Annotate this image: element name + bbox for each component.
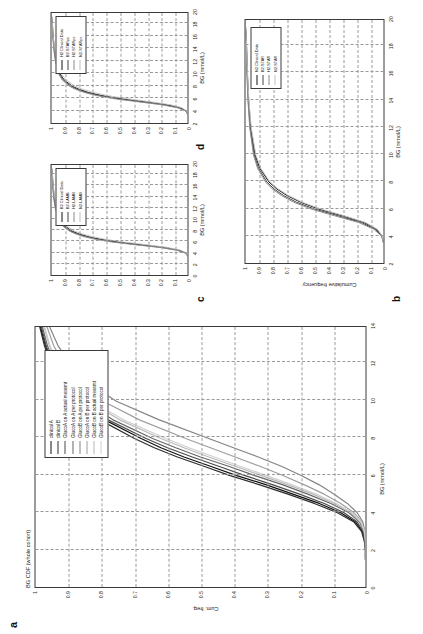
legend-label: H2 Clinical Data xyxy=(58,29,64,57)
legend-line-swatch xyxy=(268,75,269,85)
legend-item: B2-STAR xyxy=(259,31,265,85)
legend-line-swatch xyxy=(79,212,80,222)
legend-label: clinical A xyxy=(47,420,54,438)
legend-line-swatch xyxy=(79,60,80,70)
grid-line-horizontal xyxy=(329,20,330,263)
grid-line-horizontal xyxy=(161,13,162,123)
panel-d-letter: d xyxy=(194,144,205,150)
y-tick-label: 0.8 xyxy=(269,267,275,280)
figure-canvas: a BG CDF (whole cohort) 02468101214 00.1… xyxy=(0,0,423,634)
y-tick-label: 1 xyxy=(241,267,247,280)
legend-label: N2-STARpc xyxy=(77,37,83,57)
legend-line-swatch xyxy=(64,441,65,454)
y-tick-label: 0.4 xyxy=(230,591,236,604)
y-tick-label: 0.7 xyxy=(88,127,94,140)
x-tick-label: 8 xyxy=(191,85,197,88)
legend-label: B2-LAMB xyxy=(64,192,70,209)
y-tick-label: 0 xyxy=(185,127,191,140)
legend-item: N2-STAR xyxy=(272,31,278,85)
legend-item: GlucoB on B per protocol xyxy=(97,354,104,454)
y-tick-label: 0.2 xyxy=(297,591,303,604)
legend-item: B2-STARpc xyxy=(64,20,70,70)
panel-b-letter: b xyxy=(390,296,401,302)
grid-line-horizontal xyxy=(92,13,93,123)
legend-line-swatch xyxy=(61,60,62,70)
y-tick-label: 0.4 xyxy=(130,127,136,140)
y-tick-label: 0.9 xyxy=(61,127,67,140)
y-tick-label: 0.9 xyxy=(64,591,70,604)
legend-line-swatch xyxy=(73,212,74,222)
legend-item: B2-LAMB xyxy=(64,172,70,222)
grid-line-horizontal xyxy=(287,20,288,263)
grid-line-vertical xyxy=(35,511,365,512)
legend-label: GlucoA on B per protocol xyxy=(83,387,90,438)
legend-line-swatch xyxy=(57,441,58,454)
y-tick-label: 0 xyxy=(363,591,369,604)
panel-a-x-axis-label: BG (mmol/L) xyxy=(378,463,384,495)
grid-line-vertical xyxy=(245,99,383,100)
y-tick-label: 0.2 xyxy=(157,279,163,292)
panel-a-letter: a xyxy=(6,622,18,628)
grid-line-horizontal xyxy=(343,20,344,263)
y-tick-label: 0 xyxy=(185,279,191,292)
grid-line-vertical xyxy=(245,126,383,127)
panel-a-y-axis-label: Cum. freq. xyxy=(192,606,218,612)
y-tick-label: 0 xyxy=(381,267,387,280)
panel-b-legend: N2 Clinical DataB2-STARH2-STARN2-STAR xyxy=(250,27,281,89)
x-tick-label: 16 xyxy=(387,71,393,77)
x-tick-label: 12 xyxy=(387,125,393,131)
x-tick-label: 12 xyxy=(369,361,375,367)
grid-line-horizontal xyxy=(135,327,136,587)
grid-line-horizontal xyxy=(106,165,107,275)
y-tick-label: 0.6 xyxy=(297,267,303,280)
grid-line-vertical xyxy=(51,110,187,111)
x-tick-label: 10 xyxy=(369,398,375,404)
grid-line-horizontal xyxy=(371,20,372,263)
panel-c: c 02468101214161820 00.10.20.30.40.50.60… xyxy=(38,152,228,304)
y-tick-label: 0.5 xyxy=(311,267,317,280)
x-tick-label: 8 xyxy=(387,181,393,184)
panel-d-legend: H2 Clinical DataB2-STARpcH2-STARpcN2-STA… xyxy=(55,16,86,74)
x-tick-label: 2 xyxy=(191,123,197,126)
x-tick-label: 20 xyxy=(191,161,197,167)
grid-line-horizontal xyxy=(92,165,93,275)
x-tick-label: 16 xyxy=(191,184,197,190)
y-tick-label: 0.3 xyxy=(144,127,150,140)
x-tick-label: 6 xyxy=(387,208,393,211)
y-tick-label: 0.2 xyxy=(157,127,163,140)
panel-b-x-axis-label: BG (mmol/L) xyxy=(394,126,400,158)
grid-line-horizontal xyxy=(175,13,176,123)
x-tick-label: 10 xyxy=(191,217,197,223)
legend-line-swatch xyxy=(256,75,257,85)
x-tick-label: 6 xyxy=(191,241,197,244)
x-tick-label: 14 xyxy=(387,98,393,104)
legend-item: H2-STAR xyxy=(265,31,271,85)
panel-a: a BG CDF (whole cohort) 02468101214 00.1… xyxy=(0,304,423,634)
x-tick-label: 20 xyxy=(387,16,393,22)
grid-line-horizontal xyxy=(161,165,162,275)
y-tick-label: 0.9 xyxy=(61,279,67,292)
y-tick-label: 0.8 xyxy=(75,127,81,140)
legend-item: clinical A xyxy=(47,354,54,454)
x-tick-label: 0 xyxy=(191,275,197,278)
grid-line-horizontal xyxy=(168,327,169,587)
panel-a-title: BG CDF (whole cohort) xyxy=(24,530,30,588)
y-tick-label: 0.4 xyxy=(325,267,331,280)
grid-line-vertical xyxy=(245,235,383,236)
y-tick-label: 0.3 xyxy=(144,279,150,292)
x-tick-label: 12 xyxy=(191,206,197,212)
x-tick-label: 6 xyxy=(369,474,375,477)
x-tick-label: 2 xyxy=(369,549,375,552)
x-tick-label: 18 xyxy=(191,22,197,28)
legend-label: GlucoB on B per protocol xyxy=(97,387,104,438)
grid-line-horizontal xyxy=(201,327,202,587)
x-tick-label: 14 xyxy=(191,46,197,52)
grid-line-horizontal xyxy=(315,20,316,263)
legend-line-swatch xyxy=(262,75,263,85)
grid-line-vertical xyxy=(35,474,365,475)
x-tick-label: 10 xyxy=(387,152,393,158)
grid-line-horizontal xyxy=(234,327,235,587)
legend-label: GlucoB on B actual measmt xyxy=(90,381,97,438)
grid-line-vertical xyxy=(51,252,187,253)
y-tick-label: 0.5 xyxy=(116,127,122,140)
